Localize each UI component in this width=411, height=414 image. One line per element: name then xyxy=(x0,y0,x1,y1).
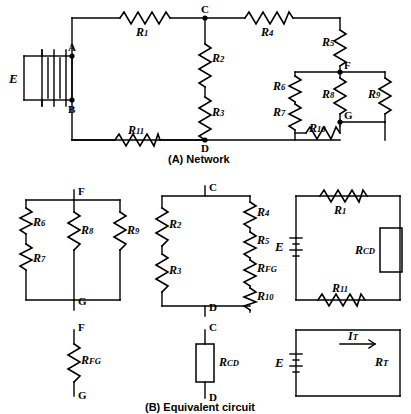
resistor-label-R1-circuit3: R1 xyxy=(334,204,346,216)
resistor-label-RFG-circuit4: RFG xyxy=(81,354,101,366)
resistor-label-RFG-circuit2: RFG xyxy=(257,262,277,274)
node-label-C-circuit2: C xyxy=(209,182,217,193)
resistor-label-R6-circuit1: R6 xyxy=(33,216,45,228)
node-label-G-circuit1: G xyxy=(78,296,87,307)
resistor-label-R8-circuit1: R8 xyxy=(81,224,93,236)
label-E-source-circuit6: E xyxy=(275,356,284,369)
caption-equivalent-circuit: (B) Equivalent circuit xyxy=(145,402,255,413)
resistor-label-R3: R3 xyxy=(212,106,224,118)
resistor-label-R1: R1 xyxy=(136,26,148,38)
node-label-F-circuit1: F xyxy=(78,186,85,197)
resistor-label-RCD-circuit5: RCD xyxy=(219,356,239,368)
resistor-label-R4: R4 xyxy=(261,26,273,38)
resistor-label-RT-circuit6: RT xyxy=(375,356,388,368)
resistor-label-R11: R11 xyxy=(128,124,144,136)
resistor-label-R7-circuit1: R7 xyxy=(33,252,45,264)
node-label-C: C xyxy=(201,4,209,15)
node-label-G-circuit4: G xyxy=(78,390,87,401)
resistor-label-R10-circuit2: R10 xyxy=(257,290,274,302)
resistor-label-R10: R10 xyxy=(309,122,326,134)
circuit-diagram-figure: E A B C D F G R1 R2 R3 R4 R5 R6 R7 R8 R9… xyxy=(0,0,411,414)
resistor-label-R5-circuit2: R5 xyxy=(257,234,269,246)
resistor-label-R2-circuit2: R2 xyxy=(169,218,181,230)
label-E-source-a: E xyxy=(9,72,18,85)
node-label-G: G xyxy=(344,110,353,121)
resistor-label-R11-circuit3: R11 xyxy=(332,282,348,294)
node-label-A: A xyxy=(68,42,76,53)
resistor-label-R4-circuit2: R4 xyxy=(257,206,269,218)
resistor-label-R8: R8 xyxy=(322,88,334,100)
resistor-label-RCD-circuit3: RCD xyxy=(355,244,375,256)
resistor-label-R9-circuit1: R9 xyxy=(127,224,139,236)
caption-network: (A) Network xyxy=(168,154,230,165)
node-label-D-circuit2: D xyxy=(209,302,217,313)
node-label-B: B xyxy=(68,104,75,115)
label-E-source-circuit3: E xyxy=(275,240,284,253)
node-label-F: F xyxy=(344,60,351,71)
resistor-label-R5: R5 xyxy=(322,36,334,48)
resistor-label-R3-circuit2: R3 xyxy=(169,264,181,276)
current-label-IT: IT xyxy=(348,330,358,342)
resistor-label-R7: R7 xyxy=(273,106,285,118)
node-label-F-circuit4: F xyxy=(78,322,85,333)
node-label-C-circuit5: C xyxy=(209,322,217,333)
resistor-label-R9: R9 xyxy=(368,88,380,100)
resistor-label-R2: R2 xyxy=(212,52,224,64)
resistor-label-R6: R6 xyxy=(273,80,285,92)
